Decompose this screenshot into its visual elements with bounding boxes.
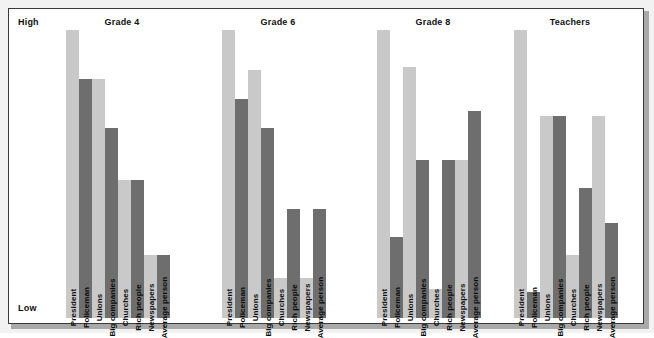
- bar-label: Unions: [248, 294, 261, 322]
- bar-group: PresidentPolicemanUnionsBig companiesChu…: [377, 30, 481, 318]
- bar[interactable]: Churches: [566, 255, 579, 318]
- bar[interactable]: Average person: [605, 223, 618, 318]
- bar[interactable]: President: [66, 30, 79, 318]
- bar[interactable]: Average person: [313, 209, 326, 318]
- bar-label: President: [222, 289, 235, 326]
- panel-group: Grade 4PresidentPolicemanUnionsBig compa…: [66, 9, 178, 323]
- bar[interactable]: Average person: [157, 255, 170, 318]
- panel-title: Grade 4: [66, 17, 178, 27]
- chart-frame: High Low Grade 4PresidentPolicemanUnions…: [8, 8, 644, 324]
- bar[interactable]: President: [514, 30, 527, 318]
- bar[interactable]: Newspapers: [144, 255, 157, 318]
- bar-label: Churches: [429, 289, 442, 327]
- bar-label: President: [514, 289, 527, 326]
- bar[interactable]: Rich people: [442, 160, 455, 318]
- bar-label: Churches: [118, 289, 131, 327]
- bar-label: Unions: [403, 294, 416, 322]
- bar[interactable]: Rich people: [131, 180, 144, 318]
- bar[interactable]: Big companies: [553, 116, 566, 318]
- bar-label: President: [377, 289, 390, 326]
- bar[interactable]: Policeman: [527, 292, 540, 318]
- bar-label: Big companies: [553, 278, 566, 336]
- bar[interactable]: Newspapers: [300, 278, 313, 318]
- bar-label: Average person: [605, 277, 618, 338]
- bar-label: President: [66, 289, 79, 326]
- panel-title: Grade 8: [377, 17, 489, 27]
- panel-group: Grade 6PresidentPolicemanUnionsBig compa…: [222, 9, 334, 323]
- panel-group: TeachersPresidentPolicemanUnionsBig comp…: [514, 9, 626, 323]
- bar[interactable]: Churches: [118, 180, 131, 318]
- plot-area: High Low Grade 4PresidentPolicemanUnions…: [9, 9, 643, 323]
- bar-label: Big companies: [416, 278, 429, 336]
- bar[interactable]: Churches: [429, 289, 442, 318]
- bar-label: Newspapers: [592, 283, 605, 331]
- axis-label-low: Low: [18, 303, 37, 313]
- bar[interactable]: Policeman: [235, 99, 248, 318]
- bar[interactable]: Churches: [274, 278, 287, 318]
- axis-label-high: High: [18, 17, 39, 27]
- panel-title: Grade 6: [222, 17, 334, 27]
- bar-label: Newspapers: [455, 283, 468, 331]
- bar[interactable]: Unions: [248, 70, 261, 318]
- bar[interactable]: Big companies: [105, 128, 118, 318]
- bar-label: Unions: [92, 294, 105, 322]
- bar-label: Unions: [540, 294, 553, 322]
- bar-label: Policeman: [527, 287, 540, 328]
- bar[interactable]: Policeman: [79, 79, 92, 318]
- bar[interactable]: President: [222, 30, 235, 318]
- bar-label: Average person: [157, 277, 170, 338]
- panel-title: Teachers: [514, 17, 626, 27]
- bar-group: PresidentPolicemanUnionsBig companiesChu…: [514, 30, 618, 318]
- bar-label: Policeman: [235, 287, 248, 328]
- bar[interactable]: Rich people: [287, 209, 300, 318]
- bar-label: Big companies: [105, 278, 118, 336]
- bar-label: Big companies: [261, 278, 274, 336]
- bar[interactable]: Average person: [468, 111, 481, 318]
- bar[interactable]: Unions: [540, 116, 553, 318]
- bar-label: Average person: [313, 277, 326, 338]
- bar[interactable]: Big companies: [416, 160, 429, 318]
- bar-label: Churches: [566, 289, 579, 327]
- bar-label: Rich people: [131, 284, 144, 330]
- bar-label: Rich people: [287, 284, 300, 330]
- bar-label: Average person: [468, 277, 481, 338]
- bar-group: PresidentPolicemanUnionsBig companiesChu…: [66, 30, 170, 318]
- bar-group: PresidentPolicemanUnionsBig companiesChu…: [222, 30, 326, 318]
- bar-label: Rich people: [579, 284, 592, 330]
- bar-label: Policeman: [79, 287, 92, 328]
- bar[interactable]: Unions: [92, 79, 105, 318]
- bar-label: Newspapers: [144, 283, 157, 331]
- bar[interactable]: Rich people: [579, 188, 592, 318]
- bar[interactable]: President: [377, 30, 390, 318]
- bar-label: Rich people: [442, 284, 455, 330]
- bar[interactable]: Policeman: [390, 237, 403, 318]
- bar-label: Newspapers: [300, 283, 313, 331]
- bar-label: Churches: [274, 289, 287, 327]
- bar[interactable]: Newspapers: [455, 160, 468, 318]
- bar[interactable]: Newspapers: [592, 116, 605, 318]
- bar-label: Policeman: [390, 287, 403, 328]
- bar[interactable]: Unions: [403, 67, 416, 318]
- bar[interactable]: Big companies: [261, 128, 274, 318]
- panel-group: Grade 8PresidentPolicemanUnionsBig compa…: [377, 9, 489, 323]
